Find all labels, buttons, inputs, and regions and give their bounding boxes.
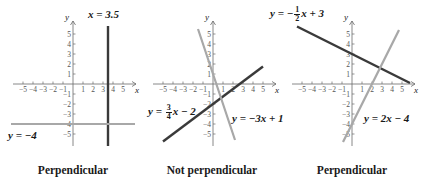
y-tick-label: −2 bbox=[342, 100, 350, 109]
x-tick-label: 1 bbox=[221, 85, 225, 94]
axes: xy−5−4−3−2−112345−5−4−3−2−112345 bbox=[153, 12, 279, 146]
y-tick-label: 5 bbox=[67, 30, 71, 39]
x-tick-label: 3 bbox=[101, 85, 105, 94]
y-tick-label: 4 bbox=[207, 40, 211, 49]
x-tick-label: 4 bbox=[251, 85, 255, 94]
graph-3: xy−5−4−3−2−112345−5−4−3−2−112345 bbox=[292, 12, 418, 146]
graph-3-dark-line-label: y = −12x + 3 bbox=[270, 6, 324, 23]
x-axis-label: x bbox=[274, 85, 279, 95]
x-tick-label: 5 bbox=[121, 85, 125, 94]
y-tick-label: 1 bbox=[207, 70, 211, 79]
x-tick-label: 2 bbox=[91, 85, 95, 94]
x-tick-label: 5 bbox=[400, 85, 404, 94]
x-tick-label: −4 bbox=[308, 85, 316, 94]
x-tick-label: 4 bbox=[111, 85, 115, 94]
equation-y-eq-neg3x-plus-1: y = −3x + 1 bbox=[232, 112, 284, 124]
y-axis-label: y bbox=[343, 12, 348, 22]
graph-line-dark bbox=[297, 27, 410, 84]
y-axis-label: y bbox=[204, 12, 209, 22]
y-tick-label: 4 bbox=[67, 40, 71, 49]
y-tick-label: −4 bbox=[342, 120, 350, 129]
y-axis-label: y bbox=[64, 12, 69, 22]
y-tick-label: −2 bbox=[63, 100, 71, 109]
fraction-denominator: 2 bbox=[294, 15, 300, 23]
y-tick-label: −3 bbox=[342, 110, 350, 119]
x-tick-label: −5 bbox=[159, 85, 167, 94]
x-tick-label: 1 bbox=[81, 85, 85, 94]
y-tick-label: −1 bbox=[342, 90, 350, 99]
y-tick-label: −4 bbox=[203, 120, 211, 129]
x-tick-label: 3 bbox=[380, 85, 384, 94]
graph-3-light-line-label: y = 2x − 4 bbox=[364, 113, 409, 124]
graph-1-horizontal-line-label: y = −4 bbox=[8, 130, 37, 141]
y-tick-label: 4 bbox=[346, 40, 350, 49]
x-tick-label: 4 bbox=[390, 85, 394, 94]
equation-prefix: y = bbox=[148, 105, 165, 117]
fraction-three-quarters: 34 bbox=[166, 104, 172, 121]
graph-2-light-line-label: y = −3x + 1 bbox=[232, 113, 284, 124]
graph-2: xy−5−4−3−2−112345−5−4−3−2−112345 bbox=[153, 12, 279, 146]
y-tick-label: −5 bbox=[63, 130, 71, 139]
graph-2-caption: Not perpendicular bbox=[167, 164, 257, 176]
equation-suffix: x − 2 bbox=[173, 105, 196, 117]
y-tick-label: 5 bbox=[207, 30, 211, 39]
x-tick-label: 1 bbox=[360, 85, 364, 94]
y-tick-label: 3 bbox=[67, 50, 71, 59]
axes: xy−5−4−3−2−112345−5−4−3−2−112345 bbox=[13, 12, 139, 146]
x-tick-label: −2 bbox=[49, 85, 57, 94]
x-tick-label: −3 bbox=[318, 85, 326, 94]
x-tick-label: −5 bbox=[19, 85, 27, 94]
fraction-denominator: 4 bbox=[166, 113, 172, 121]
graph-2-dark-line-label: y = 34x − 2 bbox=[148, 104, 196, 121]
x-axis-label: x bbox=[134, 85, 139, 95]
y-tick-label: −1 bbox=[63, 90, 71, 99]
graph-1-caption: Perpendicular bbox=[38, 164, 108, 176]
graph-3-caption: Perpendicular bbox=[317, 164, 387, 176]
equation-prefix: y = − bbox=[270, 7, 293, 19]
y-tick-label: 2 bbox=[346, 60, 350, 69]
fraction-one-half: 12 bbox=[294, 6, 300, 23]
graph-1-vertical-line-label: x = 3.5 bbox=[88, 9, 119, 20]
equation-y-eq-neg-4: y = −4 bbox=[8, 129, 37, 141]
x-tick-label: −4 bbox=[169, 85, 177, 94]
y-tick-label: 1 bbox=[67, 70, 71, 79]
y-tick-label: 2 bbox=[67, 60, 71, 69]
x-tick-label: 3 bbox=[241, 85, 245, 94]
equation-y-eq-2x-minus-4: y = 2x − 4 bbox=[364, 112, 409, 124]
y-tick-label: 1 bbox=[346, 70, 350, 79]
graph-1: xy−5−4−3−2−112345−5−4−3−2−112345 bbox=[11, 12, 139, 146]
x-axis-label: x bbox=[413, 85, 418, 95]
y-tick-label: 5 bbox=[346, 30, 350, 39]
x-tick-label: −4 bbox=[29, 85, 37, 94]
y-tick-label: −3 bbox=[63, 110, 71, 119]
equation-x-eq-3-5: x = 3.5 bbox=[88, 8, 119, 20]
equation-suffix: x + 3 bbox=[301, 7, 324, 19]
y-tick-label: −1 bbox=[203, 90, 211, 99]
y-tick-label: −5 bbox=[203, 130, 211, 139]
x-tick-label: −5 bbox=[298, 85, 306, 94]
x-tick-label: −2 bbox=[328, 85, 336, 94]
x-tick-label: 5 bbox=[261, 85, 265, 94]
x-tick-label: −2 bbox=[189, 85, 197, 94]
x-tick-label: −3 bbox=[179, 85, 187, 94]
x-tick-label: −3 bbox=[39, 85, 47, 94]
